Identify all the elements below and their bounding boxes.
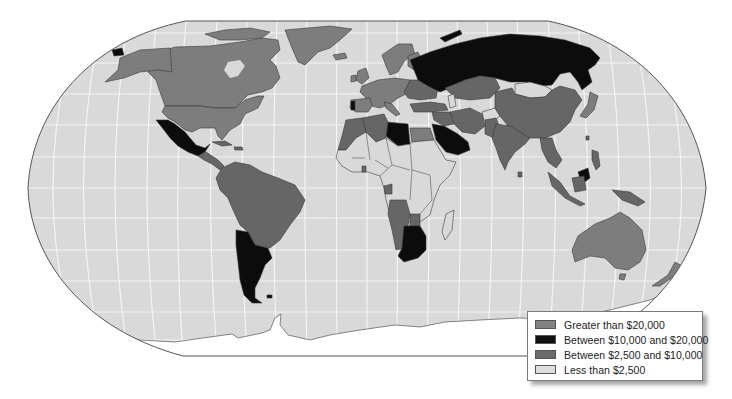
legend-label: Between $10,000 and $20,000 (564, 334, 708, 346)
gabon (384, 184, 392, 194)
ireland (351, 75, 356, 82)
taiwan (586, 136, 589, 140)
legend-swatch-10000to20000 (535, 335, 556, 344)
legend-swatch-gt20000 (535, 320, 556, 329)
legend-item-10000-to-20000: Between $10,000 and $20,000 (535, 332, 702, 347)
sri-lanka (518, 172, 522, 177)
legend-swatch-lt2500 (535, 365, 556, 374)
legend-swatch-2500to10000 (535, 350, 556, 359)
legend-item-less-than-2500: Less than $2,500 (535, 362, 702, 377)
botswana (410, 214, 420, 226)
turkey (410, 102, 448, 112)
hispaniola (234, 147, 243, 150)
map-legend: Greater than $20,000 Between $10,000 and… (527, 311, 703, 381)
legend-label: Greater than $20,000 (564, 319, 665, 331)
falklands (267, 295, 272, 298)
ghana (362, 166, 366, 172)
legend-label: Between $2,500 and $10,000 (564, 349, 703, 361)
legend-label: Less than $2,500 (564, 364, 645, 376)
portugal (351, 101, 355, 110)
legend-item-greater-than-20000: Greater than $20,000 (535, 317, 702, 332)
legend-item-2500-to-10000: Between $2,500 and $10,000 (535, 347, 702, 362)
egypt (410, 128, 434, 142)
